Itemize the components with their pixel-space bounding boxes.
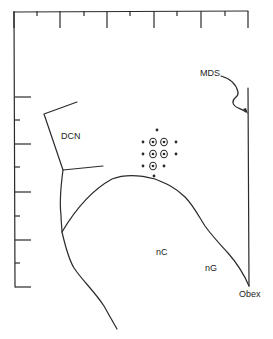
label-nc: nC <box>156 248 168 257</box>
recording-site-dot <box>142 141 145 144</box>
recording-site-dot <box>142 165 145 168</box>
label-ng: nG <box>205 264 217 273</box>
frame-axes <box>14 11 248 287</box>
left-axis-line <box>14 12 15 287</box>
brainstem-map-diagram <box>0 0 273 339</box>
recording-site-circled <box>150 150 157 158</box>
nucleus-dome-boundary <box>62 176 249 286</box>
label-dcn: DCN <box>61 132 81 141</box>
recording-sites <box>142 129 178 178</box>
mds-leader-line <box>221 76 246 112</box>
midline <box>248 88 249 286</box>
label-mds: MDS <box>200 69 220 78</box>
recording-site-circled <box>150 162 157 170</box>
recording-site-dot <box>156 129 159 132</box>
recording-site-dot <box>163 165 166 168</box>
recording-site-dot <box>142 153 145 156</box>
recording-site-circled <box>150 138 157 146</box>
top-axis-ticks <box>14 11 248 28</box>
lateral-contour <box>60 170 117 329</box>
top-axis-line <box>14 11 248 12</box>
recording-site-dot <box>175 141 178 144</box>
recording-site-circled <box>161 150 168 158</box>
left-axis-ticks <box>15 97 31 287</box>
recording-site-dot <box>175 153 178 156</box>
label-obex: Obex <box>239 290 261 299</box>
recording-site-dot <box>153 175 156 178</box>
recording-site-circled <box>161 138 168 146</box>
